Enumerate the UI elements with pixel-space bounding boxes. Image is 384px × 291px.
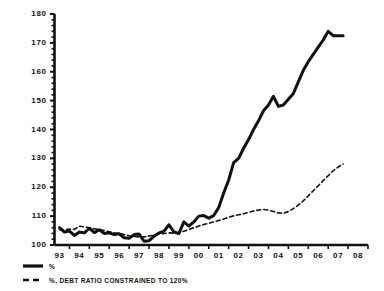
data-series-group (59, 31, 343, 241)
y-axis-tick-label: 140 (21, 125, 47, 134)
chart-container: 100110120130140150160170180 939495969798… (0, 0, 384, 291)
x-axis-tick-label: 98 (150, 251, 168, 260)
y-axis-tick-label: 100 (21, 240, 47, 249)
x-axis-tick-label: 99 (170, 251, 188, 260)
y-axis-tick-label: 180 (21, 9, 47, 18)
y-axis-tick-label: 170 (21, 38, 47, 47)
x-axis-tick-label: 04 (269, 251, 287, 260)
x-axis-tick-label: 07 (329, 251, 347, 260)
axis-lines (55, 14, 369, 245)
x-axis-tick-label: 93 (50, 251, 68, 260)
y-axis-tick-label: 130 (21, 153, 47, 162)
y-axis-ticks (50, 14, 55, 245)
x-axis-tick-label: 95 (90, 251, 108, 260)
legend-item-solid: % (22, 261, 55, 271)
x-axis-tick-label: 02 (230, 251, 248, 260)
y-axis-tick-label: 160 (21, 67, 47, 76)
x-axis-tick-label: 06 (309, 251, 327, 260)
y-axis-tick-label: 120 (21, 182, 47, 191)
x-axis-tick-label: 97 (130, 251, 148, 260)
x-axis-tick-label: 00 (190, 251, 208, 260)
x-axis-tick-label: 03 (250, 251, 268, 260)
x-axis-tick-label: 05 (289, 251, 307, 260)
y-axis-tick-label: 150 (21, 96, 47, 105)
x-axis-tick-label: 94 (70, 251, 88, 260)
series-line-solid (59, 31, 343, 241)
chart-plot-area (0, 0, 384, 291)
legend-swatch-solid-line-icon (22, 261, 44, 271)
x-axis-tick-label: 01 (210, 251, 228, 260)
legend-label-dashed: %, DEBT RATIO CONSTRAINED TO 120% (49, 277, 188, 284)
legend-item-dashed: %, DEBT RATIO CONSTRAINED TO 120% (22, 275, 188, 285)
y-axis-tick-label: 110 (21, 211, 47, 220)
series-line-dashed (59, 164, 343, 237)
legend-label-solid: % (49, 263, 55, 270)
x-axis-tick-label: 96 (110, 251, 128, 260)
legend-swatch-dashed-line-icon (22, 275, 44, 285)
x-axis-tick-label: 08 (349, 251, 367, 260)
